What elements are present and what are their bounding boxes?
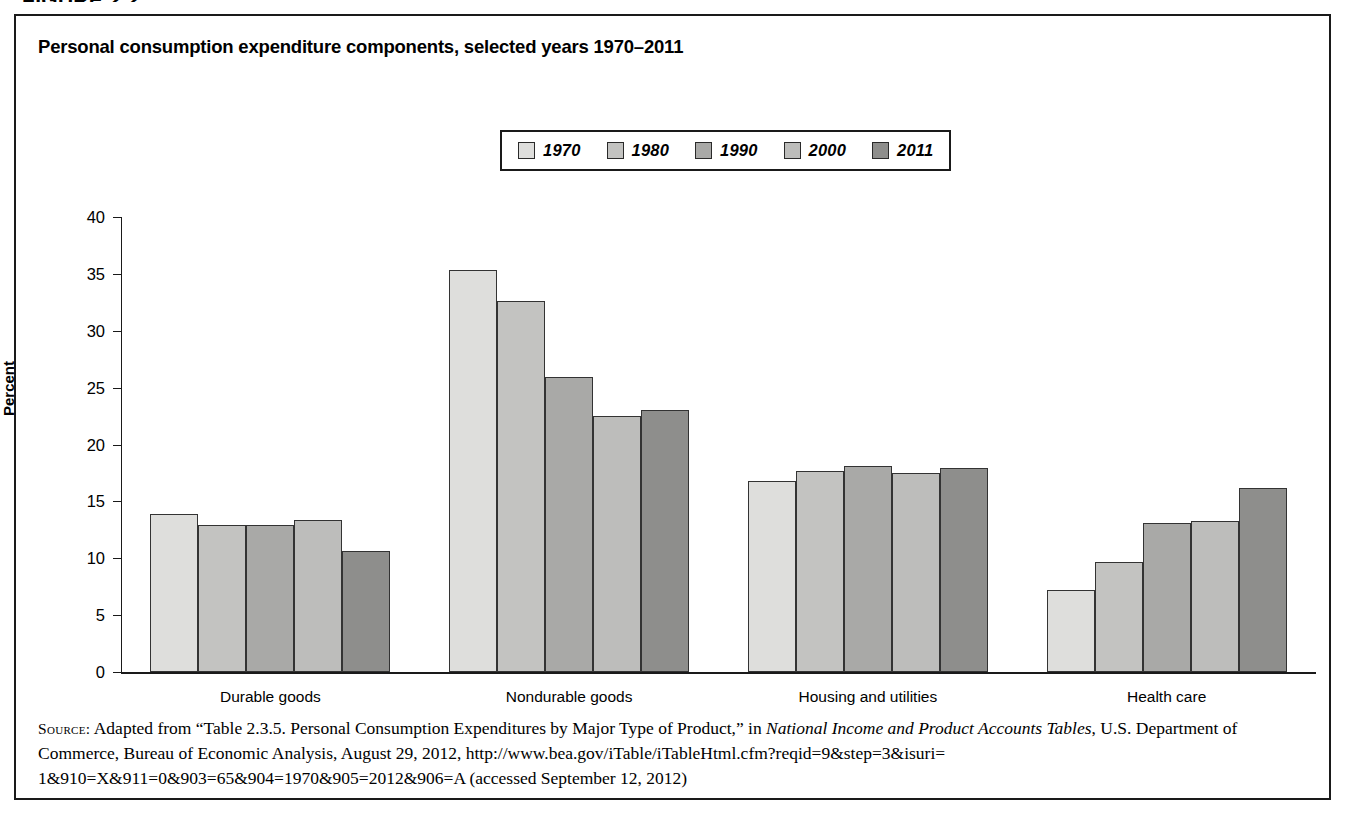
bar-nondurable-goods-2000 (593, 416, 641, 672)
x-tick-label-durable-goods: Durable goods (220, 688, 321, 706)
y-tick-label-15: 15 (63, 492, 105, 511)
plot-area: Percent 0510152025303540Durable goodsNon… (16, 16, 1329, 798)
y-tick-label-40: 40 (63, 208, 105, 227)
source-publication-title: National Income and Product Accounts Tab… (766, 718, 1092, 738)
y-tick-mark-20 (113, 445, 121, 446)
bar-nondurable-goods-1990 (545, 377, 593, 672)
y-tick-label-5: 5 (63, 606, 105, 625)
bar-housing-and-utilities-2000 (892, 473, 940, 672)
x-tick-label-nondurable-goods: Nondurable goods (506, 688, 633, 706)
y-tick-mark-0 (113, 672, 121, 673)
figure-frame: Personal consumption expenditure compone… (14, 14, 1331, 800)
x-tick-label-housing-and-utilities: Housing and utilities (799, 688, 938, 706)
y-axis-line (121, 217, 122, 672)
bar-health-care-2011 (1239, 488, 1287, 672)
x-tick-label-health-care: Health care (1127, 688, 1206, 706)
bar-nondurable-goods-1980 (497, 301, 545, 672)
bar-housing-and-utilities-1970 (748, 481, 796, 672)
y-tick-label-0: 0 (63, 663, 105, 682)
y-tick-label-25: 25 (63, 378, 105, 397)
y-tick-mark-30 (113, 331, 121, 332)
y-tick-label-20: 20 (63, 435, 105, 454)
bar-housing-and-utilities-1990 (844, 466, 892, 672)
source-label: Source: (38, 720, 90, 737)
y-tick-mark-10 (113, 558, 121, 559)
y-tick-label-35: 35 (63, 264, 105, 283)
x-axis-line (121, 672, 1316, 674)
bar-durable-goods-1990 (246, 525, 294, 672)
y-tick-mark-5 (113, 615, 121, 616)
bar-nondurable-goods-1970 (449, 270, 497, 672)
y-axis-title: Percent (0, 361, 17, 416)
source-text-a: Adapted from “Table 2.3.5. Personal Cons… (90, 718, 766, 738)
y-tick-mark-35 (113, 274, 121, 275)
figure-number-header: FIGURE 2.2 (22, 0, 139, 2)
bar-durable-goods-2000 (294, 520, 342, 672)
bar-health-care-1980 (1095, 562, 1143, 672)
y-tick-mark-40 (113, 217, 121, 218)
bar-housing-and-utilities-2011 (940, 468, 988, 672)
y-tick-mark-15 (113, 501, 121, 502)
y-tick-mark-25 (113, 388, 121, 389)
source-note: Source: Adapted from “Table 2.3.5. Perso… (38, 716, 1308, 791)
bar-health-care-1970 (1047, 590, 1095, 672)
bar-nondurable-goods-2011 (641, 410, 689, 672)
y-tick-label-10: 10 (63, 549, 105, 568)
bar-durable-goods-2011 (342, 551, 390, 672)
source-line-3: 1&910=X&911=0&903=65&904=1970&905=2012&9… (38, 768, 687, 788)
bar-durable-goods-1980 (198, 525, 246, 672)
bar-housing-and-utilities-1980 (796, 471, 844, 672)
bar-durable-goods-1970 (150, 514, 198, 672)
source-text-b: , (1092, 718, 1096, 738)
bar-health-care-1990 (1143, 523, 1191, 672)
bar-health-care-2000 (1191, 521, 1239, 672)
y-tick-label-30: 30 (63, 321, 105, 340)
